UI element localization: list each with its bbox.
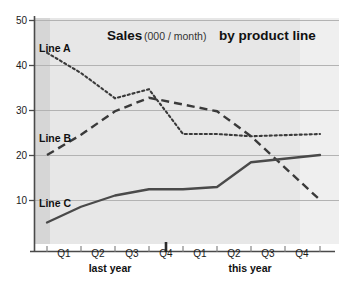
x-tick-label-ty-q3: Q3 [261,248,275,259]
y-tick-marks [29,21,34,201]
plot-fade-right [300,18,339,244]
x-tick-label-ty-q4: Q4 [295,248,309,259]
x-tick-label-ly-q4: Q4 [159,248,173,259]
x-tick-label-ty-q2: Q2 [227,248,241,259]
y-tick-label-30: 30 [16,105,28,116]
chart-title-subtext: (000 / month) [144,30,206,42]
series-label-line-b: Line B [39,132,72,144]
x-group-label-last-year: last year [89,262,132,274]
y-tick-label-50: 50 [16,15,28,26]
y-tick-label-10: 10 [16,195,28,206]
x-tick-label-ly-q2: Q2 [91,248,105,259]
x-group-label-this-year: this year [228,262,271,274]
series-label-line-c: Line C [39,197,72,209]
chart-title-lead: Sales [107,28,142,43]
series-label-line-a: Line A [39,42,71,54]
plot-background [34,18,339,244]
y-tick-label-40: 40 [16,60,28,71]
x-tick-label-ly-q3: Q3 [125,248,139,259]
sales-line-chart: 50 40 30 20 10 Q1 Q2 Q3 Q4 Q1 Q2 Q3 Q4 l… [0,0,339,281]
chart-canvas: 50 40 30 20 10 Q1 Q2 Q3 Q4 Q1 Q2 Q3 Q4 l… [0,0,339,281]
x-tick-label-ty-q1: Q1 [193,248,207,259]
y-tick-label-20: 20 [16,150,28,161]
x-tick-label-ly-q1: Q1 [57,248,71,259]
chart-title-tail: by product line [219,28,316,43]
